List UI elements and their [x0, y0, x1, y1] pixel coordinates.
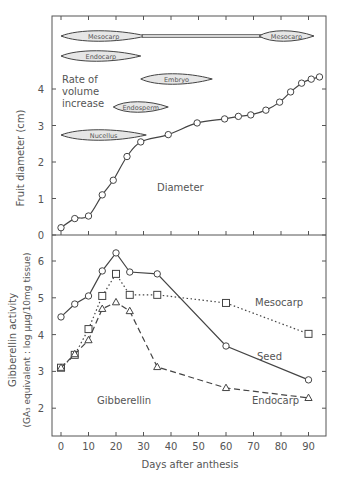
x-tick-label: 50 — [192, 441, 205, 452]
mesocarp-point — [85, 326, 92, 333]
upper-y-tick-label: 3 — [38, 121, 44, 132]
upper-y-tick-label: 2 — [38, 157, 44, 168]
seed-point — [127, 269, 133, 275]
diameter-label: Diameter — [157, 182, 205, 193]
x-tick-label: 10 — [82, 441, 95, 452]
seed-point — [99, 268, 105, 274]
band-label: Mesocarp — [88, 33, 119, 41]
x-tick-label: 70 — [247, 441, 260, 452]
band-label: Endosperm — [122, 104, 159, 112]
endocarp-point — [99, 305, 106, 311]
lower-y-tick-label: 2 — [38, 403, 44, 414]
rate-label-line1: Rate of — [62, 74, 98, 85]
x-tick-label: 60 — [220, 441, 233, 452]
seed-legend-label: Seed — [257, 351, 282, 362]
diameter-point — [138, 139, 144, 145]
band-label: Endocarp — [86, 53, 117, 61]
band-label: Embryo — [164, 76, 189, 84]
diameter-point — [308, 76, 314, 82]
diameter-point — [298, 80, 304, 86]
endocarp-point — [112, 298, 119, 304]
seed-point — [72, 301, 78, 307]
x-tick-label: 20 — [110, 441, 123, 452]
endocarp-legend-label: Endocarp — [252, 395, 299, 406]
diameter-point — [194, 120, 200, 126]
x-tick-label: 80 — [275, 441, 288, 452]
mesocarp-point — [154, 291, 161, 298]
mesocarp-point — [223, 299, 230, 306]
diameter-point — [165, 131, 171, 137]
gibberellin-series — [57, 250, 312, 401]
upper-y-tick-label: 4 — [38, 84, 44, 95]
lower-y-axis-label-line2: (GA₃ equivalent : log µµg/10mg tissue) — [22, 252, 32, 427]
seed-point — [223, 343, 229, 349]
diameter-point — [110, 177, 116, 183]
diameter-point — [248, 112, 254, 118]
lower-y-tick-label: 3 — [38, 366, 44, 377]
diameter-point — [276, 99, 282, 105]
seed-point — [305, 377, 311, 383]
lower-y-tick-label: 4 — [38, 330, 44, 341]
seed-point — [85, 293, 91, 299]
mesocarp-point — [305, 330, 312, 337]
diameter-point — [72, 215, 78, 221]
x-axis-label: Days after anthesis — [141, 459, 238, 470]
endocarp-point — [126, 307, 133, 313]
x-tick-label: 30 — [137, 441, 150, 452]
upper-y-tick-label: 0 — [38, 230, 44, 241]
seed-point — [113, 250, 119, 256]
diameter-point — [263, 107, 269, 113]
endocarp-point — [154, 363, 161, 369]
mesocarp-point — [99, 292, 106, 299]
diameter-point — [124, 153, 130, 159]
volume-band-thin — [142, 35, 263, 38]
lower-y-tick-label: 5 — [38, 293, 44, 304]
mesocarp-point — [126, 291, 133, 298]
mesocarp-legend-label: Mesocarp — [255, 297, 303, 308]
x-tick-label: 90 — [302, 441, 315, 452]
mesocarp-point — [113, 270, 120, 277]
rate-label-line3: increase — [62, 98, 104, 109]
upper-y-axis-label: Fruit diameter (cm) — [15, 109, 26, 206]
diameter-point — [235, 113, 241, 119]
endocarp-point — [222, 384, 229, 390]
x-tick-label: 40 — [165, 441, 178, 452]
gibberellin-label: Gibberellin — [97, 395, 151, 406]
lower-y-axis-label-line1: Gibberellin activity — [7, 293, 18, 387]
seed-point — [154, 271, 160, 277]
diameter-point — [99, 192, 105, 198]
band-label: Mesocarp — [271, 33, 302, 41]
band-label: Nucellus — [90, 132, 118, 140]
diameter-point — [221, 116, 227, 122]
diameter-point — [316, 74, 322, 80]
diameter-point — [287, 89, 293, 95]
seed-point — [58, 314, 64, 320]
endocarp-point — [85, 336, 92, 342]
diameter-point — [58, 225, 64, 231]
rate-label-line2: volume — [62, 86, 99, 97]
figure: 01020304050607080900123423456 MesocarpMe… — [0, 0, 342, 481]
upper-y-tick-label: 1 — [38, 194, 44, 205]
x-tick-label: 0 — [58, 441, 64, 452]
diameter-point — [85, 213, 91, 219]
lower-y-tick-label: 6 — [38, 256, 44, 267]
